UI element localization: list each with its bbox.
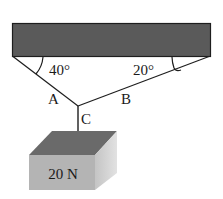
rope-label-a: A	[48, 91, 59, 107]
angle-label-b: 20°	[133, 62, 154, 78]
block-weight-label: 20 N	[48, 166, 78, 182]
diagram-canvas: 40° 20° A B C 20 N	[0, 0, 223, 199]
rope-label-b: B	[121, 91, 131, 107]
angle-arc-a	[36, 57, 43, 74]
rope-label-c: C	[81, 111, 91, 127]
ceiling	[13, 24, 211, 57]
angle-arc-b	[172, 57, 174, 68]
angle-label-a: 40°	[49, 62, 70, 78]
